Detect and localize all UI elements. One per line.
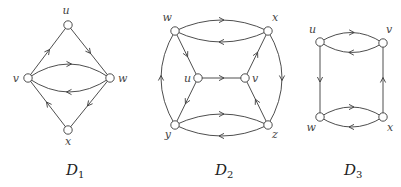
vertex-u (316, 38, 324, 46)
digraph-d1: uvwx (13, 4, 128, 148)
arc-w-to-v (28, 78, 110, 92)
caption-d3: D3 (343, 161, 362, 180)
vertex-label-z: z (271, 128, 278, 141)
vertex-label-u: u (184, 72, 191, 85)
arc-u-to-w (68, 25, 110, 78)
digraph-d2: wxuvyz (158, 11, 284, 141)
vertex-u (64, 21, 72, 29)
vertex-w (171, 27, 179, 35)
vertex-v (241, 74, 249, 82)
vertex-label-u: u (62, 4, 69, 17)
vertex-label-w: w (163, 11, 173, 24)
vertex-label-y: y (164, 128, 172, 141)
vertex-label-v: v (252, 72, 259, 85)
vertex-label-u: u (309, 23, 316, 36)
vertex-y (171, 121, 179, 129)
arc-x-to-v (28, 78, 68, 130)
arc-x-to-z (268, 31, 282, 125)
digraph-d3: uvwx (307, 23, 394, 134)
vertex-label-w: w (118, 72, 128, 85)
vertex-label-x: x (272, 11, 279, 24)
vertex-v (24, 74, 32, 82)
vertex-w (106, 74, 114, 82)
vertex-label-v: v (386, 23, 393, 36)
caption-d2: D2 (214, 161, 233, 180)
vertex-u (194, 74, 202, 82)
vertex-label-w: w (307, 121, 317, 134)
vertex-x (379, 113, 387, 121)
arc-v-to-u (28, 25, 68, 78)
vertex-label-v: v (13, 72, 20, 85)
vertex-w (316, 113, 324, 121)
arc-w-to-x (68, 78, 110, 130)
digraph-figure: uvwx wxuvyz uvwx D1 D2 D3 (0, 0, 401, 187)
vertex-x (264, 27, 272, 35)
caption-d1: D1 (65, 161, 84, 180)
vertex-z (264, 121, 272, 129)
vertex-label-x: x (387, 121, 394, 134)
arc-y-to-w (161, 31, 175, 125)
vertex-label-x: x (65, 135, 72, 148)
vertex-x (64, 126, 72, 134)
vertex-v (379, 39, 387, 47)
arc-v-to-w (28, 64, 110, 78)
